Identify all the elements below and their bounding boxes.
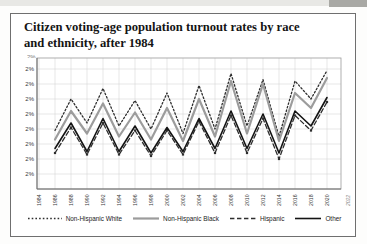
chart-card: Citizen voting-age population turnout ra… bbox=[10, 13, 356, 237]
x-tick-label: 2006 bbox=[212, 194, 218, 206]
x-tick-label: 2002 bbox=[180, 194, 186, 206]
legend-label-non-hispanic-white: Non-Hispanic White bbox=[66, 215, 122, 222]
series-marker-hispanic bbox=[326, 101, 328, 103]
legend-label-non-hispanic-black: Non-Hispanic Black bbox=[163, 215, 219, 222]
x-tick-label: 2008 bbox=[228, 194, 234, 206]
y-tick-label: 2% bbox=[25, 171, 34, 177]
x-tick-label: 2004 bbox=[196, 194, 202, 206]
y-tick-label: 2% bbox=[25, 111, 34, 117]
legend-sample-non-hispanic-white-line bbox=[27, 215, 63, 222]
series-line-non-hispanic-white bbox=[55, 71, 327, 137]
series-marker-hispanic bbox=[102, 122, 104, 124]
y-tick-label: 2% bbox=[25, 96, 34, 102]
x-tick-label: 2000 bbox=[164, 194, 170, 206]
chart-legend: Non-Hispanic WhiteNon-Hispanic BlackHisp… bbox=[11, 215, 357, 222]
x-tick-label: 2016 bbox=[292, 194, 298, 206]
legend-item-hispanic: Hispanic bbox=[229, 215, 285, 222]
top-strip-right-segment bbox=[329, 0, 367, 7]
x-tick-label: 1996 bbox=[132, 194, 138, 206]
legend-sample-other-line bbox=[294, 215, 322, 222]
x-edge-label: 2022 bbox=[345, 195, 351, 207]
x-tick-label: 1998 bbox=[148, 194, 154, 206]
legend-label-hispanic: Hispanic bbox=[260, 215, 285, 222]
y-tick-label: 2% bbox=[25, 66, 34, 72]
series-line-other bbox=[55, 98, 327, 154]
series-marker-hispanic bbox=[246, 152, 248, 154]
series-marker-hispanic bbox=[70, 126, 72, 128]
y-tick-label: 2% bbox=[25, 156, 34, 162]
y-tick-label: 2% bbox=[25, 126, 34, 132]
series-marker-hispanic bbox=[182, 153, 184, 155]
series-marker-hispanic bbox=[150, 155, 152, 157]
legend-item-non-hispanic-white: Non-Hispanic White bbox=[27, 215, 122, 222]
x-tick-label: 1988 bbox=[68, 194, 74, 206]
x-tick-label: 2012 bbox=[260, 194, 266, 206]
series-marker-hispanic bbox=[118, 153, 120, 155]
series-marker-hispanic bbox=[54, 152, 56, 154]
series-marker-hispanic bbox=[86, 153, 88, 155]
x-tick-label: 1986 bbox=[52, 194, 58, 206]
x-tick-label: 1994 bbox=[116, 194, 122, 206]
legend-item-other: Other bbox=[294, 215, 341, 222]
legend-item-non-hispanic-black: Non-Hispanic Black bbox=[132, 215, 219, 222]
legend-label-other: Other bbox=[325, 215, 341, 222]
y-tick-label: 2% bbox=[25, 81, 34, 87]
x-tick-label: 1984 bbox=[36, 194, 42, 206]
x-tick-label: 2018 bbox=[308, 194, 314, 206]
series-marker-hispanic bbox=[278, 158, 280, 160]
x-tick-label: 2020 bbox=[324, 194, 330, 206]
top-strip bbox=[0, 0, 367, 6]
x-tick-label: 2014 bbox=[276, 194, 282, 206]
turnout-line-chart: 2%2%2%2%2%2%2%2%198419861988199019921994… bbox=[11, 14, 357, 238]
x-tick-label: 1990 bbox=[84, 194, 90, 206]
series-marker-hispanic bbox=[134, 129, 136, 131]
page: Citizen voting-age population turnout ra… bbox=[0, 0, 367, 244]
x-tick-label: 2010 bbox=[244, 194, 250, 206]
y-tick-label: 2% bbox=[25, 141, 34, 147]
series-marker-hispanic bbox=[214, 152, 216, 154]
legend-sample-non-hispanic-black-line bbox=[132, 215, 160, 222]
legend-sample-hispanic-line bbox=[229, 215, 257, 222]
x-tick-label: 1992 bbox=[100, 194, 106, 206]
series-marker-hispanic bbox=[310, 129, 312, 131]
